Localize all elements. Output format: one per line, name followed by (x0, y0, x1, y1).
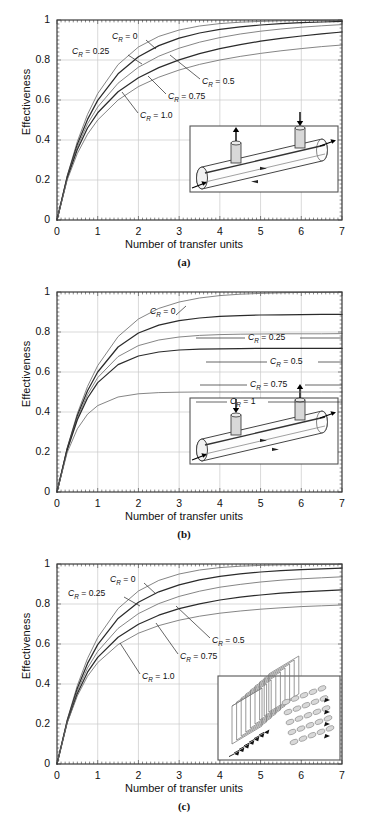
svg-text:0: 0 (54, 769, 60, 781)
svg-text:0.4: 0.4 (35, 677, 50, 689)
svg-text:0.8: 0.8 (35, 53, 50, 65)
svg-text:2: 2 (136, 225, 142, 237)
svg-text:2: 2 (136, 769, 142, 781)
svg-text:1: 1 (95, 225, 101, 237)
panel-b: 0123456700.20.40.60.81CR = 0CR = 0.25CR … (0, 272, 368, 544)
svg-text:3: 3 (176, 225, 182, 237)
svg-text:0: 0 (54, 225, 60, 237)
svg-text:6: 6 (298, 497, 304, 509)
panel-b-caption: (b) (0, 528, 368, 540)
svg-text:5: 5 (258, 769, 264, 781)
svg-text:4: 4 (217, 497, 223, 509)
panel-b-plot: 0123456700.20.40.60.81CR = 0CR = 0.25CR … (0, 272, 368, 544)
panel-a-y-axis-label: Effectiveness (20, 32, 32, 172)
svg-text:CR = 0.25: CR = 0.25 (248, 332, 286, 344)
svg-text:1: 1 (95, 497, 101, 509)
svg-text:0.2: 0.2 (35, 173, 50, 185)
svg-text:7: 7 (339, 497, 345, 509)
panel-a-plot: 0123456700.20.40.60.81CR = 0CR = 0.25CR … (0, 0, 368, 272)
svg-text:5: 5 (258, 497, 264, 509)
svg-text:0.6: 0.6 (35, 637, 50, 649)
effectiveness-ntu-figure: 0123456700.20.40.60.81CR = 0CR = 0.25CR … (0, 0, 368, 816)
svg-text:CR = 0.75: CR = 0.75 (168, 91, 206, 103)
svg-text:1: 1 (44, 285, 50, 297)
svg-text:CR = 0: CR = 0 (110, 574, 136, 586)
panel-c: 0123456700.20.40.60.81CR = 0CR = 0.25CR … (0, 544, 368, 816)
svg-text:1: 1 (95, 769, 101, 781)
panel-c-plot: 0123456700.20.40.60.81CR = 0CR = 0.25CR … (0, 544, 368, 816)
svg-text:CR = 0.75: CR = 0.75 (180, 651, 218, 663)
panel-c-x-axis-label: Number of transfer units (0, 782, 368, 794)
svg-text:4: 4 (217, 225, 223, 237)
svg-text:0: 0 (54, 497, 60, 509)
panel-a: 0123456700.20.40.60.81CR = 0CR = 0.25CR … (0, 0, 368, 272)
svg-text:CR = 0: CR = 0 (150, 306, 176, 318)
svg-text:3: 3 (176, 769, 182, 781)
svg-text:CR = 0.75: CR = 0.75 (250, 379, 288, 391)
svg-text:CR = 1.0: CR = 1.0 (142, 671, 175, 683)
svg-text:0.4: 0.4 (35, 405, 50, 417)
panel-a-caption: (a) (0, 256, 368, 268)
panel-c-y-axis-label: Effectiveness (20, 576, 32, 716)
svg-text:7: 7 (339, 225, 345, 237)
svg-text:6: 6 (298, 225, 304, 237)
svg-text:0.4: 0.4 (35, 133, 50, 145)
svg-text:0: 0 (44, 485, 50, 497)
svg-text:7: 7 (339, 769, 345, 781)
svg-text:0.6: 0.6 (35, 93, 50, 105)
svg-text:3: 3 (176, 497, 182, 509)
svg-text:CR = 0.5: CR = 0.5 (202, 76, 235, 88)
panel-a-x-axis-label: Number of transfer units (0, 238, 368, 250)
panel-b-y-axis-label: Effectiveness (20, 304, 32, 444)
svg-text:0.2: 0.2 (35, 445, 50, 457)
svg-text:1: 1 (44, 13, 50, 25)
svg-text:0.6: 0.6 (35, 365, 50, 377)
svg-text:0.2: 0.2 (35, 717, 50, 729)
svg-text:CR = 0.5: CR = 0.5 (270, 356, 303, 368)
svg-text:6: 6 (298, 769, 304, 781)
svg-text:0: 0 (44, 213, 50, 225)
svg-text:1: 1 (44, 557, 50, 569)
svg-text:2: 2 (136, 497, 142, 509)
panel-b-x-axis-label: Number of transfer units (0, 510, 368, 522)
svg-text:0.8: 0.8 (35, 325, 50, 337)
svg-text:CR = 0.5: CR = 0.5 (212, 635, 245, 647)
svg-text:CR = 1.0: CR = 1.0 (140, 110, 173, 122)
svg-text:0.8: 0.8 (35, 597, 50, 609)
svg-text:CR = 0.25: CR = 0.25 (68, 588, 106, 600)
svg-text:0: 0 (44, 757, 50, 769)
svg-text:CR = 0: CR = 0 (112, 31, 138, 43)
svg-text:CR = 0.25: CR = 0.25 (72, 46, 110, 58)
svg-text:5: 5 (258, 225, 264, 237)
svg-text:4: 4 (217, 769, 223, 781)
panel-c-caption: (c) (0, 800, 368, 812)
